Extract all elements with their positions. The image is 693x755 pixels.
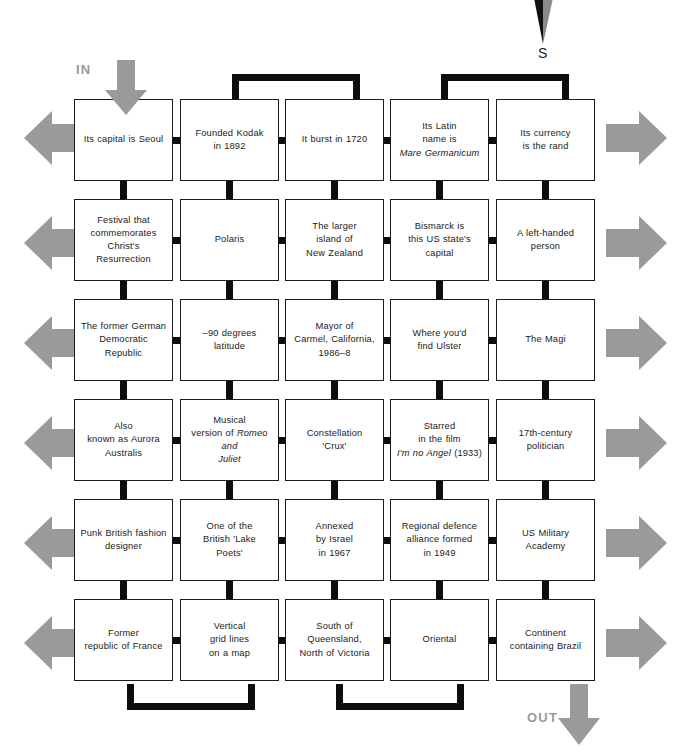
clue-box-r4-c1[interactable]: Alsoknown as AuroraAustralis [74,399,173,481]
clue-box-r4-c4[interactable]: Starredin the filmI'm no Angel (1933) [390,399,489,481]
clue-text: One of theBritish 'LakePoets' [198,520,261,560]
connector-v-c4-r4-r5 [436,480,443,500]
connector-v-c1-r5-r6 [120,580,127,600]
connector-v-c5-r3-r4 [542,380,549,400]
clue-text: The former GermanDemocratic Republic [75,320,172,360]
clue-box-r6-c5[interactable]: Continentcontaining Brazil [496,599,595,681]
connector-v-c2-r5-r6 [226,580,233,600]
clue-box-r1-c2[interactable]: Founded Kodakin 1892 [180,99,279,181]
clue-box-r5-c2[interactable]: One of theBritish 'LakePoets' [180,499,279,581]
clue-text: Regional defencealliance formedin 1949 [397,520,482,560]
in-label: IN [76,62,91,77]
clue-box-r4-c3[interactable]: Constellation'Crux' [285,399,384,481]
clue-text: 17th-centurypolitician [514,427,577,453]
clue-text: It burst in 1720 [297,133,372,146]
clue-box-r3-c5[interactable]: The Magi [496,299,595,381]
connector-v-c4-r1-r2 [436,180,443,200]
clue-text: Musicalversion of Romeo andJuliet [181,414,278,467]
compass-label: S [538,45,548,61]
clue-text: The largerisland ofNew Zealand [301,220,368,260]
clue-box-r5-c1[interactable]: Punk British fashiondesigner [74,499,173,581]
connector-v-c4-r3-r4 [436,380,443,400]
clue-box-r1-c4[interactable]: Its Latinname isMare Germanicum [390,99,489,181]
connector-v-c3-r1-r2 [331,180,338,200]
connector-v-c4-r5-r6 [436,580,443,600]
clue-text: Alsoknown as AuroraAustralis [82,420,165,460]
clue-box-r5-c3[interactable]: Annexedby Israelin 1967 [285,499,384,581]
connector-v-c1-r3-r4 [120,380,127,400]
connector-v-c3-r5-r6 [331,580,338,600]
clue-box-r6-c4[interactable]: Oriental [390,599,489,681]
row-arrow-right-1 [605,107,667,169]
row-arrow-right-2 [605,212,667,274]
connector-v-c5-r4-r5 [542,480,549,500]
clue-box-r6-c3[interactable]: South ofQueensland,North of Victoria [285,599,384,681]
bridge-top-col2-col3 [232,74,360,100]
out-arrow-icon [557,684,601,750]
row-arrow-right-6 [605,612,667,674]
clue-text: Its capital is Seoul [79,133,168,146]
row-arrow-right-4 [605,412,667,474]
connector-v-c2-r2-r3 [226,280,233,300]
clue-text: The Magi [520,333,570,346]
compass-needle-highlight-icon [543,0,553,44]
connector-v-c3-r4-r5 [331,480,338,500]
clue-text: –90 degrees latitude [181,327,278,353]
clue-box-r6-c2[interactable]: Verticalgrid lineson a map [180,599,279,681]
clue-box-r4-c5[interactable]: 17th-centurypolitician [496,399,595,481]
clue-box-r3-c4[interactable]: Where you'dfind Ulster [390,299,489,381]
connector-v-c1-r1-r2 [120,180,127,200]
connector-v-c4-r2-r3 [436,280,443,300]
clue-text: Constellation'Crux' [302,427,368,453]
clue-box-r3-c1[interactable]: The former GermanDemocratic Republic [74,299,173,381]
clue-text: Bismarck isthis US state'scapital [403,220,475,260]
clue-box-r2-c2[interactable]: Polaris [180,199,279,281]
clue-text: A left-handedperson [512,227,579,253]
clue-text: Annexedby Israelin 1967 [311,520,359,560]
connector-v-c5-r5-r6 [542,580,549,600]
clue-box-r5-c4[interactable]: Regional defencealliance formedin 1949 [390,499,489,581]
connector-v-c3-r2-r3 [331,280,338,300]
clue-text: US MilitaryAcademy [517,527,574,553]
connector-v-c5-r1-r2 [542,180,549,200]
clue-box-r5-c5[interactable]: US MilitaryAcademy [496,499,595,581]
compass-needle-icon [534,0,543,44]
clue-text: Where you'dfind Ulster [407,327,471,353]
connector-v-c5-r2-r3 [542,280,549,300]
connector-v-c1-r2-r3 [120,280,127,300]
bridge-bottom-col1-col2 [127,684,255,710]
clue-text: Formerrepublic of France [79,627,167,653]
puzzle-canvas: S IN OUT [0,0,693,755]
clue-text: Oriental [418,633,462,646]
out-label: OUT [527,710,558,725]
clue-text: Founded Kodakin 1892 [190,127,268,153]
clue-box-r4-c2[interactable]: Musicalversion of Romeo andJuliet [180,399,279,481]
connector-v-c2-r4-r5 [226,480,233,500]
clue-box-r3-c3[interactable]: Mayor ofCarmel, California,1986–8 [285,299,384,381]
clue-text: Its currencyis the rand [515,127,575,153]
clue-box-r3-c2[interactable]: –90 degrees latitude [180,299,279,381]
in-arrow-icon [104,60,148,120]
clue-text: Polaris [210,233,249,246]
clue-box-r1-c3[interactable]: It burst in 1720 [285,99,384,181]
clue-text: South ofQueensland,North of Victoria [294,620,374,660]
clue-text: Starredin the filmI'm no Angel (1933) [392,420,487,460]
clue-box-r2-c1[interactable]: Festival thatcommemoratesChrist'sResurre… [74,199,173,281]
connector-v-c3-r3-r4 [331,380,338,400]
clue-text: Its Latinname isMare Germanicum [395,120,485,160]
clue-box-r2-c4[interactable]: Bismarck isthis US state'scapital [390,199,489,281]
clue-text: Mayor ofCarmel, California,1986–8 [289,320,379,360]
connector-v-c2-r3-r4 [226,380,233,400]
clue-box-r6-c1[interactable]: Formerrepublic of France [74,599,173,681]
bridge-top-col4-col5 [441,74,569,100]
row-arrow-right-3 [605,312,667,374]
row-arrow-right-5 [605,512,667,574]
clue-text: Verticalgrid lineson a map [204,620,255,660]
connector-v-c2-r1-r2 [226,180,233,200]
bridge-bottom-col3-col4 [336,684,464,710]
clue-box-r1-c5[interactable]: Its currencyis the rand [496,99,595,181]
clue-text: Festival thatcommemoratesChrist'sResurre… [86,214,162,267]
clue-box-r2-c5[interactable]: A left-handedperson [496,199,595,281]
clue-box-r2-c3[interactable]: The largerisland ofNew Zealand [285,199,384,281]
connector-v-c1-r4-r5 [120,480,127,500]
